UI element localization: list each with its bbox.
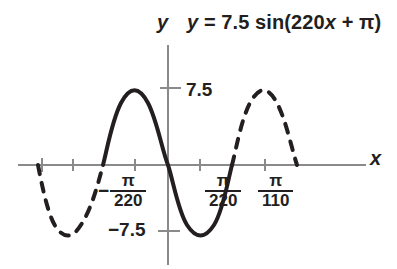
fraction-denominator: 220 [110,190,146,210]
equation-label: y = 7.5 sin(220x + π) [187,12,381,32]
x-tick-label-pi-over-220: π 220 [205,172,241,210]
sine-graph-figure: y = 7.5 sin(220x + π) y x 7.5 −7.5 − π 2… [0,0,397,269]
x-tick-label-neg-pi-over-220: − π 220 [98,172,146,210]
y-axis-ticks [158,88,181,231]
curve-segment-dashed-right [232,90,297,165]
equation-lhs: y [187,11,198,33]
fraction-denominator: 110 [258,190,293,210]
fraction-sign: − [98,180,109,202]
fraction-numerator: π [213,172,234,190]
fraction-denominator: 220 [205,190,241,210]
graph-canvas [0,0,397,269]
fraction-numerator: π [118,172,139,190]
equation-operator: = [204,11,216,33]
y-tick-label-negative: −7.5 [108,220,146,239]
x-tick-label-pi-over-110: π 110 [258,172,293,210]
x-axis-label: x [370,148,381,168]
y-axis-label: y [157,12,168,32]
y-tick-label-positive: 7.5 [186,80,212,99]
curve-segment-dashed-left [38,165,103,236]
fraction-numerator: π [265,172,286,190]
equation-rhs-prefix: 7.5 sin(220 [221,11,324,33]
equation-rhs-suffix: + π) [336,11,381,33]
